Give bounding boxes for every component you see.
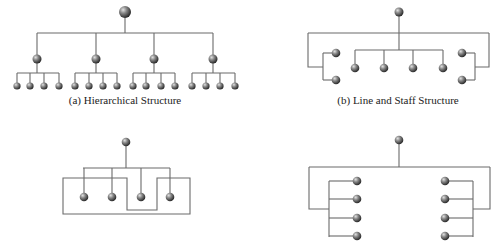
node [439, 64, 448, 73]
node [353, 177, 362, 186]
leaf-node [26, 82, 33, 89]
connector-line [473, 167, 490, 209]
mid-node [209, 55, 218, 64]
node [137, 193, 146, 202]
node [380, 64, 389, 73]
caption-hierarchical-structure: (a) Hierarchical Structure [69, 94, 181, 106]
line-and-staff-structure-diagram [308, 8, 489, 85]
leaf-node [231, 82, 238, 89]
top-node [395, 136, 404, 145]
leaf-node [129, 82, 136, 89]
hierarchical-structure-diagram [13, 6, 238, 90]
mid-node [92, 55, 101, 64]
node [441, 214, 450, 223]
committee-structure-diagram [309, 136, 490, 241]
connector-line [309, 167, 329, 209]
node [458, 76, 467, 85]
connector-line [475, 33, 489, 67]
leaf-node [71, 82, 78, 89]
top-node [395, 8, 404, 17]
node [80, 193, 89, 202]
leaf-node [188, 82, 195, 89]
leaf-node [85, 82, 92, 89]
node [353, 214, 362, 223]
leaf-node [113, 82, 120, 89]
leaf-node [13, 82, 20, 89]
functional-structure-diagram [63, 138, 190, 214]
node [353, 195, 362, 204]
leaf-node [55, 82, 62, 89]
node [166, 193, 175, 202]
mid-node [33, 55, 42, 64]
leaf-node [40, 82, 47, 89]
leaf-node [202, 82, 209, 89]
leaf-node [216, 82, 223, 89]
leaf-node [99, 82, 106, 89]
leaf-node [171, 82, 178, 89]
node [409, 64, 418, 73]
node [441, 195, 450, 204]
node [108, 193, 117, 202]
top-node [119, 6, 131, 18]
mid-node [150, 55, 159, 64]
connector-line [308, 33, 323, 67]
leaf-node [142, 82, 149, 89]
node [332, 49, 341, 58]
node [351, 64, 360, 73]
leaf-node [157, 82, 164, 89]
org-structure-diagrams [0, 0, 494, 250]
node [353, 232, 362, 241]
node [458, 49, 467, 58]
node [441, 177, 450, 186]
top-node [122, 138, 131, 147]
node [441, 232, 450, 241]
caption-line-and-staff-structure: (b) Line and Staff Structure [337, 94, 458, 106]
node [332, 76, 341, 85]
